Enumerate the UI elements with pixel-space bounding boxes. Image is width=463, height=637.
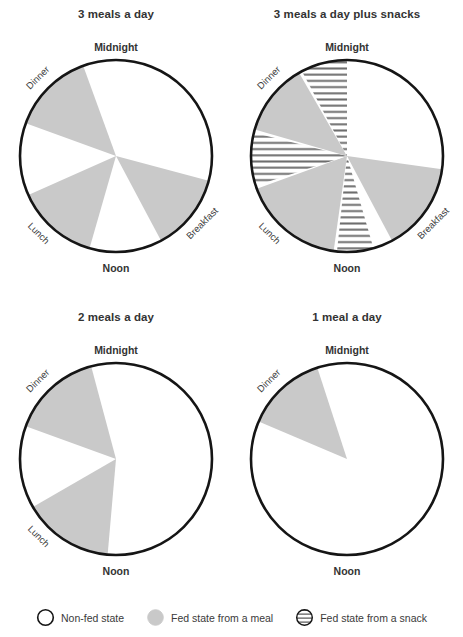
clock-pie-three-meals-a-day: MidnightNoonBreakfastLunchDinner bbox=[0, 22, 232, 297]
legend-label: Fed state from a meal bbox=[171, 612, 273, 624]
chart-cell-three-meals-a-day: 3 meals a day MidnightNoonBreakfastLunch… bbox=[0, 0, 232, 300]
legend-item-snack: Fed state from a snack bbox=[295, 608, 427, 627]
pie-chart-grid: 3 meals a day MidnightNoonBreakfastLunch… bbox=[0, 0, 463, 600]
chart-cell-one-meal-a-day: 1 meal a day MidnightNoonDinner bbox=[231, 303, 463, 603]
sector-label-dinner: Dinner bbox=[255, 367, 283, 395]
chart-cell-three-meals-a-day-plus-snacks: 3 meals a day plus snacks MidnightNoonBr… bbox=[231, 0, 463, 300]
clock-pie-two-meals-a-day: MidnightNoonLunchDinner bbox=[0, 325, 232, 600]
axis-label-noon: Noon bbox=[334, 565, 361, 577]
pie-svg: MidnightNoonBreakfastLunchDinner bbox=[231, 22, 463, 297]
axis-label-midnight: Midnight bbox=[325, 41, 369, 53]
chart-title: 3 meals a day plus snacks bbox=[231, 8, 463, 20]
pie-svg: MidnightNoonDinner bbox=[231, 325, 463, 600]
legend-item-non-fed: Non-fed state bbox=[36, 608, 124, 627]
legend-label: Fed state from a snack bbox=[320, 612, 427, 624]
axis-label-noon: Noon bbox=[334, 262, 361, 274]
axis-label-midnight: Midnight bbox=[94, 344, 138, 356]
open-circle-swatch-icon bbox=[36, 608, 55, 627]
chart-title: 2 meals a day bbox=[0, 311, 232, 323]
chart-title: 3 meals a day bbox=[0, 8, 232, 20]
clock-pie-one-meal-a-day: MidnightNoonDinner bbox=[231, 325, 463, 600]
legend: Non-fed state Fed state from a meal Fed … bbox=[0, 598, 463, 637]
pie-svg: MidnightNoonBreakfastLunchDinner bbox=[0, 22, 232, 297]
pie-svg: MidnightNoonLunchDinner bbox=[0, 325, 232, 600]
clock-pie-three-meals-a-day-plus-snacks: MidnightNoonBreakfastLunchDinner bbox=[231, 22, 463, 297]
chart-title: 1 meal a day bbox=[231, 311, 463, 323]
axis-label-midnight: Midnight bbox=[94, 41, 138, 53]
gray-circle-swatch-icon bbox=[146, 608, 165, 627]
axis-label-noon: Noon bbox=[103, 565, 130, 577]
hatched-circle-swatch-icon bbox=[295, 608, 314, 627]
legend-item-meal: Fed state from a meal bbox=[146, 608, 273, 627]
legend-label: Non-fed state bbox=[61, 612, 124, 624]
chart-cell-two-meals-a-day: 2 meals a day MidnightNoonLunchDinner bbox=[0, 303, 232, 603]
sector-label-dinner: Dinner bbox=[24, 64, 52, 92]
axis-label-noon: Noon bbox=[103, 262, 130, 274]
sector-label-dinner: Dinner bbox=[24, 367, 52, 395]
sector-label-dinner: Dinner bbox=[255, 64, 283, 92]
axis-label-midnight: Midnight bbox=[325, 344, 369, 356]
